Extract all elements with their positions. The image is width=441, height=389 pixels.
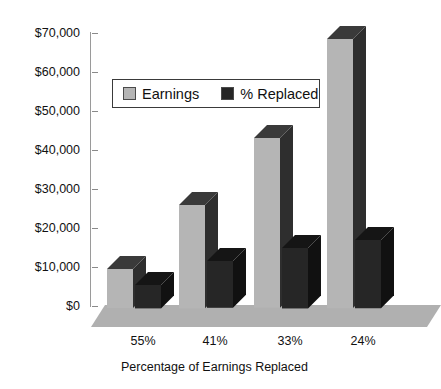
y-axis-tick-label: $60,000	[8, 66, 80, 78]
chart-legend: Earnings % Replaced	[112, 79, 320, 108]
bar-earnings	[107, 269, 133, 308]
y-axis-tick-label: $40,000	[8, 144, 80, 156]
legend-label-earnings: Earnings	[142, 87, 199, 101]
y-axis-tick-label: $30,000	[8, 183, 80, 195]
y-axis-tick-label: $10,000	[8, 261, 80, 273]
bar-replaced	[207, 261, 233, 308]
bar-earnings	[179, 205, 205, 308]
x-axis-title: Percentage of Earnings Replaced	[0, 360, 441, 374]
legend-swatch-replaced	[221, 87, 234, 100]
y-axis-tick-label: $0	[8, 300, 80, 312]
legend-item-earnings: Earnings	[123, 87, 199, 101]
bar-chart: $0$10,000$20,000$30,000$40,000$50,000$60…	[0, 0, 441, 389]
y-axis: $0$10,000$20,000$30,000$40,000$50,000$60…	[8, 0, 80, 389]
bar-earnings	[327, 39, 353, 308]
x-axis-tick-label: 24%	[350, 334, 375, 348]
x-axis-tick-label: 55%	[130, 334, 155, 348]
bar-replaced	[135, 285, 161, 308]
x-axis-tick-label: 41%	[202, 334, 227, 348]
legend-item-replaced: % Replaced	[221, 87, 318, 101]
bar-earnings	[254, 138, 280, 308]
y-axis-tick-label: $70,000	[8, 27, 80, 39]
chart-floor	[91, 305, 441, 327]
plot-area	[91, 16, 441, 308]
y-axis-tick-label: $50,000	[8, 105, 80, 117]
legend-label-replaced: % Replaced	[240, 87, 318, 101]
x-axis-tick-label: 33%	[277, 334, 302, 348]
bar-replaced	[282, 248, 308, 308]
bar-replaced	[355, 240, 381, 308]
legend-swatch-earnings	[123, 87, 136, 100]
y-axis-tick-label: $20,000	[8, 222, 80, 234]
